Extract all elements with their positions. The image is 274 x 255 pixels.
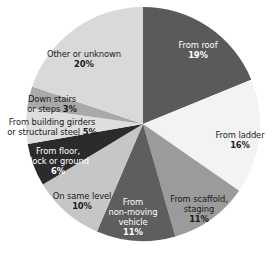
slice-percent: 16% [216, 140, 265, 150]
slice-label-text: From scaffold, [170, 194, 227, 204]
slice-label-text: On same level [53, 191, 112, 201]
slice-percent: 19% [179, 50, 218, 60]
slice-label-text: or structural steel 5% [7, 127, 96, 137]
slice-percent: 11% [170, 214, 227, 224]
slice-label-text: From roof [179, 40, 218, 50]
slice-label-text: From floor, [27, 146, 89, 156]
slice-percent: 5% [83, 127, 97, 137]
slice-label-text: vehicle [109, 217, 158, 227]
slice-label: Other or unknown20% [47, 49, 121, 69]
slice-label-text: dock or ground [27, 156, 89, 166]
slice-label: From building girdersor structural steel… [7, 117, 96, 137]
slice-label-text: staging [170, 204, 227, 214]
slice-percent: 10% [53, 201, 112, 211]
slice-label: From floor,dock or ground6% [27, 146, 89, 176]
slice-label-text: or steps 3% [27, 104, 77, 114]
slice-label: From roof19% [179, 40, 218, 60]
slice-label-text: From building girders [7, 117, 96, 127]
slice-percent: 6% [27, 166, 89, 176]
slice-percent: 3% [63, 104, 77, 114]
slice-label-text: From ladder [216, 130, 265, 140]
slice-label-text: Down stairs [27, 94, 77, 104]
slice-percent: 11% [109, 227, 158, 237]
slice-label-text: From [109, 197, 158, 207]
slice-label-text: non-moving [109, 207, 158, 217]
slice-label: From ladder16% [216, 130, 265, 150]
slice-percent: 20% [47, 59, 121, 69]
slice-label: On same level10% [53, 191, 112, 211]
slice-label: Fromnon-movingvehicle11% [109, 197, 158, 237]
slice-label: Down stairsor steps 3% [27, 94, 77, 114]
slice-label-text: Other or unknown [47, 49, 121, 59]
slice-label: From scaffold,staging11% [170, 194, 227, 224]
